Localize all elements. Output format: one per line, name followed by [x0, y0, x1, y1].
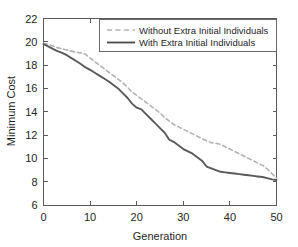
x-tick-label: 50	[270, 211, 282, 223]
y-tick-label: 14	[25, 106, 37, 118]
line-chart: 6810121416182022 01020304050 Generation …	[0, 0, 298, 247]
x-tick-label: 40	[224, 211, 236, 223]
x-tick-label: 30	[177, 211, 189, 223]
legend-label-without-extra: Without Extra Initial Individuals	[139, 25, 269, 36]
y-tick-label: 8	[31, 176, 37, 188]
x-axis-title: Generation	[133, 230, 187, 242]
y-tick-label: 18	[25, 59, 37, 71]
x-tick-label: 0	[40, 211, 46, 223]
x-tick-label: 10	[84, 211, 96, 223]
y-tick-label: 12	[25, 129, 37, 141]
chart-legend: Without Extra Initial Individuals With E…	[100, 20, 277, 52]
y-tick-label: 6	[31, 199, 37, 211]
x-tick-label: 20	[131, 211, 143, 223]
y-tick-label: 16	[25, 82, 37, 94]
y-tick-label: 20	[25, 36, 37, 48]
legend-label-with-extra: With Extra Initial Individuals	[139, 37, 255, 48]
y-tick-label: 10	[25, 152, 37, 164]
y-tick-label: 22	[25, 13, 37, 25]
y-axis-title: Minimum Cost	[5, 76, 17, 146]
chart-figure: 6810121416182022 01020304050 Generation …	[0, 0, 298, 247]
